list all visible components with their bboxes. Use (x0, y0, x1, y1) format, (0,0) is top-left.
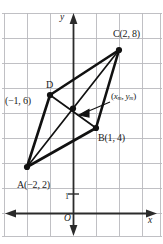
point-A-label: A(−2, 2) (17, 180, 50, 190)
midpoint-y-subscript: m (129, 95, 133, 101)
origin-label: O (64, 214, 71, 224)
point-D-label: D (46, 80, 53, 90)
coordinate-geometry-figure: y x O 1 C(2, 8) D (−1, 6) B(1, 4) A(−2, … (0, 0, 163, 244)
vertex-B (93, 125, 99, 131)
point-D-coords: (−1, 6) (5, 96, 31, 106)
grid-lines (2, 13, 162, 237)
midpoint-label: (xm, ym) (111, 92, 136, 102)
y-axis-label: y (60, 13, 64, 23)
unit-tick-label: 1 (65, 193, 69, 201)
vertex-D (47, 92, 53, 98)
vertex-midpoint (70, 105, 76, 111)
midpoint-x-subscript: m (118, 95, 122, 101)
axis-lines (12, 22, 150, 228)
point-C-label: C(2, 8) (113, 29, 140, 39)
vertex-A (24, 164, 30, 170)
point-B-label: B(1, 4) (98, 133, 125, 143)
vertex-C (116, 47, 122, 53)
midpoint-leader-arrow (79, 102, 110, 117)
x-axis-label: x (148, 216, 152, 226)
